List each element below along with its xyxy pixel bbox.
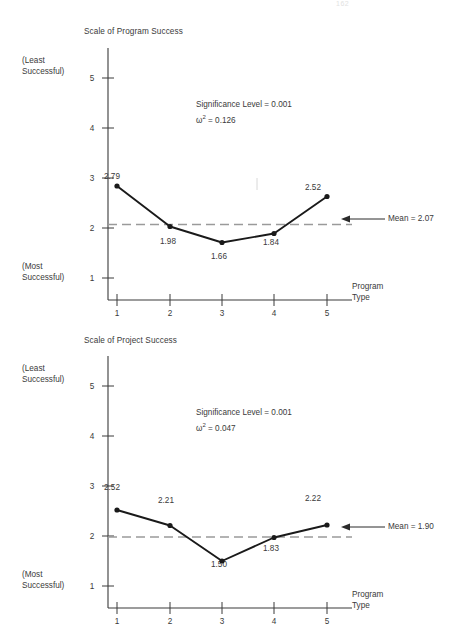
data-point-markers <box>114 183 329 245</box>
y-axis-ticks: 1 2 3 4 5 <box>90 74 114 283</box>
data-point-marker <box>114 507 119 512</box>
data-point-marker <box>324 194 329 199</box>
y-tick-label: 1 <box>90 274 95 283</box>
mean-arrow-head <box>341 524 350 531</box>
x-tick-label: 4 <box>272 617 277 626</box>
y-tick-label: 3 <box>90 174 95 183</box>
data-point-markers <box>114 507 329 563</box>
data-point-marker <box>219 240 224 245</box>
x-tick-label: 3 <box>220 617 225 626</box>
y-tick-label: 5 <box>90 74 95 83</box>
x-tick-label: 1 <box>115 617 120 626</box>
x-axis-ticks: 1 2 3 4 5 <box>115 294 330 318</box>
data-series-line <box>117 186 327 243</box>
x-tick-label: 1 <box>115 309 120 318</box>
data-point-marker <box>167 224 172 229</box>
plot-area-project: 1 2 3 4 5 1 2 3 4 5 <box>0 320 460 628</box>
data-point-marker <box>114 183 119 188</box>
data-point-marker <box>271 535 276 540</box>
y-tick-label: 4 <box>90 432 95 441</box>
data-point-marker <box>271 231 276 236</box>
y-tick-label: 2 <box>90 224 95 233</box>
x-tick-label: 5 <box>325 617 330 626</box>
plot-area-program: 1 2 3 4 5 1 2 3 4 5 <box>0 0 460 320</box>
figure-project-success: Scale of Project Success (Least Successf… <box>0 320 460 628</box>
x-tick-label: 3 <box>220 309 225 318</box>
y-tick-label: 5 <box>90 382 95 391</box>
data-series-line <box>117 510 327 561</box>
x-tick-label: 4 <box>272 309 277 318</box>
x-tick-label: 2 <box>168 617 173 626</box>
y-tick-label: 4 <box>90 124 95 133</box>
data-point-marker <box>219 558 224 563</box>
data-point-marker <box>167 523 172 528</box>
figure-program-success: Scale of Program Success (Least Successf… <box>0 0 460 320</box>
x-tick-label: 2 <box>168 309 173 318</box>
x-axis-ticks: 1 2 3 4 5 <box>115 602 330 626</box>
y-tick-label: 2 <box>90 532 95 541</box>
data-point-marker <box>324 522 329 527</box>
x-tick-label: 5 <box>325 309 330 318</box>
y-tick-label: 1 <box>90 582 95 591</box>
y-tick-label: 3 <box>90 482 95 491</box>
y-axis-ticks: 1 2 3 4 5 <box>90 382 114 591</box>
mean-arrow-head <box>341 216 350 223</box>
